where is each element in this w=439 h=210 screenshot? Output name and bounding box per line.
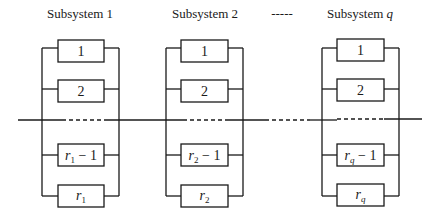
component-label: rq − 1: [345, 148, 377, 165]
suffix: − 1: [355, 148, 377, 163]
subscript: 2: [205, 195, 210, 205]
component-label: r2 − 1: [189, 148, 221, 165]
subsystem-2: 1 2 r2 − 1 r2: [166, 40, 243, 207]
subsystem-q: 1 2 rq − 1 rq: [322, 39, 399, 206]
component-label: 1: [201, 44, 208, 59]
component-label: 2: [78, 84, 85, 99]
component-label: 2: [357, 83, 364, 98]
subsystem-1: 1 2 r1 − 1 r1: [42, 40, 119, 207]
subsystem-2-title: Subsystem 2: [172, 6, 238, 21]
series-line: [18, 119, 422, 120]
reliability-block-diagram: Subsystem 1 Subsystem 2 ----- Subsystem …: [0, 0, 439, 210]
header-ellipsis: -----: [271, 6, 293, 21]
subsystem-q-title-var: q: [387, 6, 394, 21]
subsystem-q-title: Subsystem q: [327, 6, 394, 21]
component-label: 1: [357, 43, 364, 58]
subscript: q: [361, 194, 366, 204]
suffix: − 1: [75, 148, 97, 163]
subsystem-1-title: Subsystem 1: [47, 6, 113, 21]
component-label: 2: [201, 84, 208, 99]
component-label: 1: [78, 44, 85, 59]
suffix: − 1: [199, 148, 221, 163]
component-label: r1 − 1: [65, 148, 97, 165]
subsystem-q-title-prefix: Subsystem: [327, 6, 387, 21]
subscript: 1: [81, 195, 86, 205]
